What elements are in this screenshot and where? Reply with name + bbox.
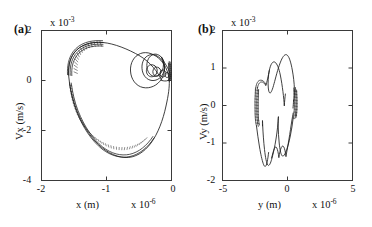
- panel-b: (b) x 10-3 2 1 0 -1 -2 -5 0 5 Vy (m/s) y…: [186, 0, 372, 227]
- panel-a-oscillation-upper: [67, 41, 103, 76]
- panel-a-y-tickmarks: [42, 31, 172, 181]
- panel-a-x-tickmarks: [42, 31, 172, 181]
- panel-a-frame: [42, 31, 172, 181]
- panel-b-left-band: [255, 80, 266, 126]
- panel-a-oscillation-lower: [70, 83, 155, 157]
- panel-b-y-tickmarks: [223, 31, 353, 181]
- panel-a-right-band: [168, 62, 171, 81]
- panel-a-plot: [0, 0, 186, 227]
- panel-b-plot: [186, 0, 372, 227]
- panel-b-frame: [223, 31, 353, 181]
- panel-a: (a) x 10-3 2 0 -2 -4 -2 -1 0 Vx (m/s) x …: [0, 0, 186, 227]
- panel-b-x-tickmarks: [223, 31, 353, 181]
- panel-b-trajectory: [255, 55, 297, 167]
- figure-container: (a) x 10-3 2 0 -2 -4 -2 -1 0 Vx (m/s) x …: [0, 0, 372, 227]
- panel-a-trajectory: [67, 41, 171, 158]
